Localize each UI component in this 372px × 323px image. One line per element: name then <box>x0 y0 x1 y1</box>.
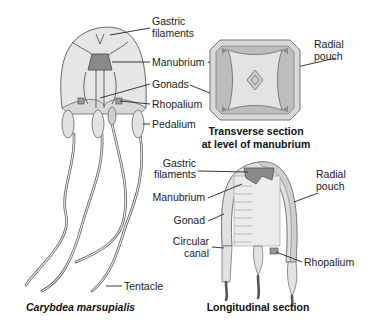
label-gastric-filaments-1: Gastric <box>152 15 185 27</box>
label-long-gonad: Gonad <box>173 214 205 226</box>
transverse-section-title-1: Transverse section <box>208 125 303 137</box>
label-circular-canal-2: canal <box>184 247 209 259</box>
label-long-gastric-filaments-2: filaments <box>154 168 196 180</box>
label-radial-pouch-1: Radial <box>314 38 344 50</box>
longitudinal-section-illustration <box>221 162 296 306</box>
label-gonads: Gonads <box>152 78 189 90</box>
label-gastric-filaments-2: filaments <box>152 27 194 39</box>
label-long-radial-pouch-2: pouch <box>316 180 345 192</box>
label-long-radial-pouch-1: Radial <box>316 168 346 180</box>
label-long-manubrium: Manubrium <box>152 191 205 203</box>
box-jellyfish-diagram: Gastric filaments Manubrium Gonads Rhopa… <box>0 0 372 323</box>
species-caption: Carybdea marsupialis <box>26 301 135 313</box>
transverse-section-illustration <box>210 40 300 120</box>
label-radial-pouch-2: pouch <box>314 50 343 62</box>
longitudinal-section-title: Longitudinal section <box>207 301 310 313</box>
label-circular-canal-1: Circular <box>173 235 210 247</box>
label-pedalium: Pedalium <box>152 118 196 130</box>
label-manubrium: Manubrium <box>152 56 205 68</box>
manubrium <box>88 54 112 70</box>
transverse-section-title-2: at level of manubrium <box>202 138 311 150</box>
whole-animal-illustration <box>26 27 146 291</box>
label-rhopalium: Rhopalium <box>152 98 202 110</box>
pedalium <box>62 110 74 138</box>
label-tentacle: Tentacle <box>124 280 163 292</box>
label-long-rhopalium: Rhopalium <box>304 256 354 268</box>
tentacles <box>26 124 142 291</box>
